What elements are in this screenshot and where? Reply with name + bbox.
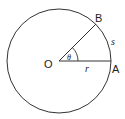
angle-arc bbox=[72, 48, 78, 61]
label-angle-theta: θ bbox=[67, 53, 71, 62]
label-center-o: O bbox=[44, 58, 53, 70]
label-point-b: B bbox=[95, 12, 102, 24]
label-radius-r: r bbox=[85, 63, 89, 74]
label-point-a: A bbox=[112, 63, 120, 75]
label-arc-s: s bbox=[111, 36, 115, 47]
circle-diagram: O A B s r θ bbox=[0, 0, 125, 119]
